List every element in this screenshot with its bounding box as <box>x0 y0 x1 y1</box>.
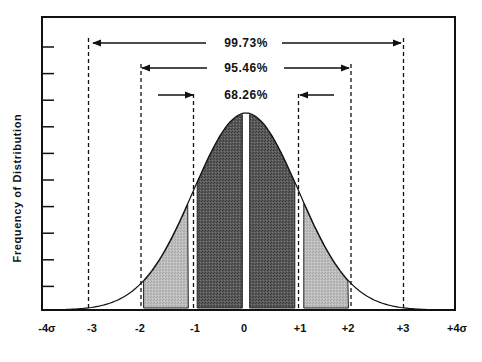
x-tick-label: -3 <box>87 322 97 334</box>
shaded-regions <box>144 115 349 309</box>
x-axis-labels: -4σ -3 -2 -1 0 +1 +2 +3 +4σ <box>38 322 467 334</box>
annotation-99: 99.73% <box>93 36 401 50</box>
x-tick-label: -4σ <box>38 322 56 334</box>
x-tick-label: +1 <box>294 322 307 334</box>
x-tick-label: +2 <box>342 322 355 334</box>
label-95-46: 95.46% <box>224 61 268 75</box>
region-left-2sigma <box>144 205 189 308</box>
x-tick-label: 0 <box>241 322 247 334</box>
region-right-1sigma <box>250 115 295 309</box>
sigma-dashed-lines <box>89 38 404 310</box>
region-right-2sigma <box>304 203 349 308</box>
x-tick-label: +4σ <box>447 322 468 334</box>
region-left-1sigma <box>197 115 242 309</box>
annotation-95: 95.46% <box>142 61 349 75</box>
x-tick-label: +3 <box>397 322 410 334</box>
label-99-73: 99.73% <box>224 36 268 50</box>
annotation-68: 68.26% <box>158 88 334 102</box>
x-tick-label: -1 <box>190 322 200 334</box>
normal-curve <box>65 113 427 310</box>
normal-distribution-chart: 99.73% 95.46% 68.26% Frequency of Distri… <box>0 0 482 362</box>
y-axis-label: Frequency of Distribution <box>11 114 23 263</box>
x-tick-label: -2 <box>135 322 145 334</box>
y-axis-ticks <box>43 47 54 286</box>
label-68-26: 68.26% <box>224 88 268 102</box>
